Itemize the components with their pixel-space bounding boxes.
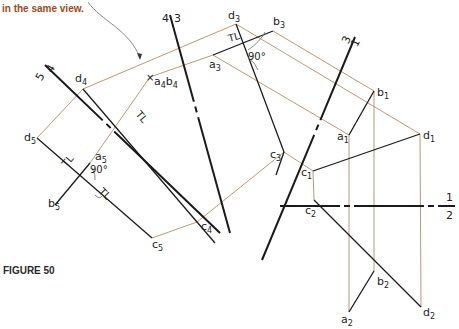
label-c5: c5 (152, 238, 163, 253)
label-c4: c4 (201, 220, 212, 235)
leader-arrowhead-icon (137, 53, 142, 60)
label-b3: b3 (273, 15, 285, 30)
label-c1: c1 (301, 166, 312, 181)
angle-label-view3: 90° (248, 51, 266, 62)
label-a5: a5 (95, 150, 107, 165)
tl-label-view5-left: TL (59, 153, 76, 170)
fold-label-1: 1 (446, 191, 453, 204)
fold-label-2: 2 (446, 209, 453, 222)
label-d1: d1 (423, 129, 435, 144)
label-a4b4: a4b4 (154, 75, 178, 90)
tl-label-view4: TL (133, 108, 150, 125)
label-b1: b1 (377, 86, 389, 101)
fold-label-4: 4 (43, 63, 58, 76)
angle-arrows (92, 32, 265, 198)
leader-arrow (88, 2, 140, 58)
tl-label-view5-right: TL (96, 185, 113, 202)
fold-label-3-right: 3 (174, 12, 181, 25)
fold-label-4-left: 4 (162, 12, 169, 25)
angle-label-view5: 90° (90, 164, 108, 175)
label-d3: d3 (228, 9, 240, 24)
fold-label-5: 5 (33, 70, 48, 83)
label-b5: b5 (48, 197, 60, 212)
label-a2: a2 (341, 313, 353, 328)
label-b2: b2 (377, 275, 389, 290)
cross-mark: × (146, 72, 154, 83)
label-d2: d2 (423, 306, 435, 321)
annotations: TL 90° TL TL 90° TL (59, 30, 266, 202)
label-a3: a3 (209, 58, 221, 73)
label-a1: a1 (337, 130, 349, 145)
label-d4: d4 (75, 72, 87, 87)
label-d5: d5 (24, 131, 36, 146)
label-c3: c3 (270, 148, 281, 163)
descriptive-geometry-drawing: d3 b3 a3 c3 d4 a4b4 × c4 d5 a5 b5 c5 b1 … (0, 0, 459, 329)
